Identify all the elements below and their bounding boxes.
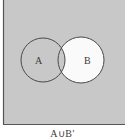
set-a-label: A bbox=[35, 55, 43, 66]
venn-diagram: A B bbox=[0, 0, 125, 127]
set-b-label: B bbox=[84, 55, 91, 66]
diagram-caption: A∪B' bbox=[0, 127, 125, 140]
